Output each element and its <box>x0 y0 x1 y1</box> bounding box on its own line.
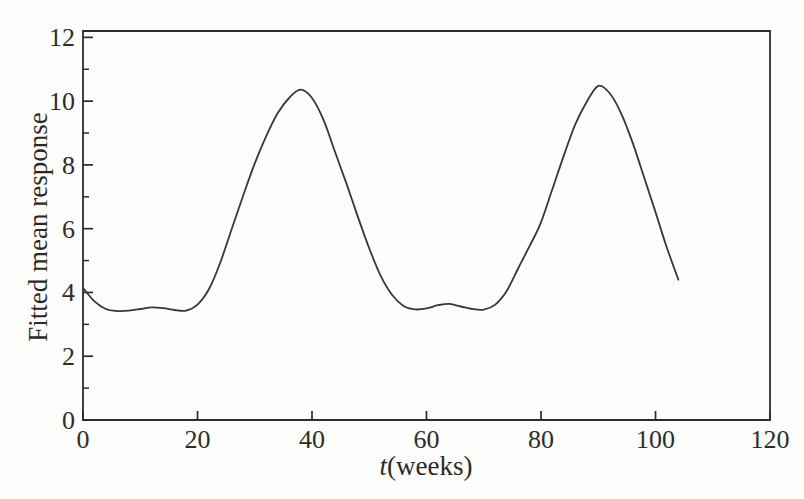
y-tick-label: 0 <box>62 406 75 435</box>
x-tick-label: 0 <box>77 425 90 454</box>
plot-frame <box>83 31 770 420</box>
x-axis-label-variable: t <box>380 451 388 481</box>
x-tick-label: 100 <box>636 425 675 454</box>
x-axis-label: t(weeks) <box>326 451 526 482</box>
chart-canvas: 020406080100120024681012 <box>0 0 804 499</box>
y-tick-label: 8 <box>62 151 75 180</box>
x-tick-label: 120 <box>751 425 790 454</box>
y-axis-label: Fitted mean response <box>23 77 53 377</box>
x-tick-label: 20 <box>185 425 211 454</box>
scanned-line-chart-figure: 020406080100120024681012 Fitted mean res… <box>0 0 804 499</box>
fitted-response-curve <box>83 86 678 312</box>
y-tick-label: 4 <box>62 278 75 307</box>
y-tick-label: 12 <box>49 23 75 52</box>
x-tick-label: 40 <box>299 425 325 454</box>
x-axis-label-unit: (weeks) <box>387 451 472 481</box>
y-tick-label: 6 <box>62 215 75 244</box>
x-tick-label: 60 <box>414 425 440 454</box>
x-tick-label: 80 <box>528 425 554 454</box>
y-tick-label: 2 <box>62 342 75 371</box>
